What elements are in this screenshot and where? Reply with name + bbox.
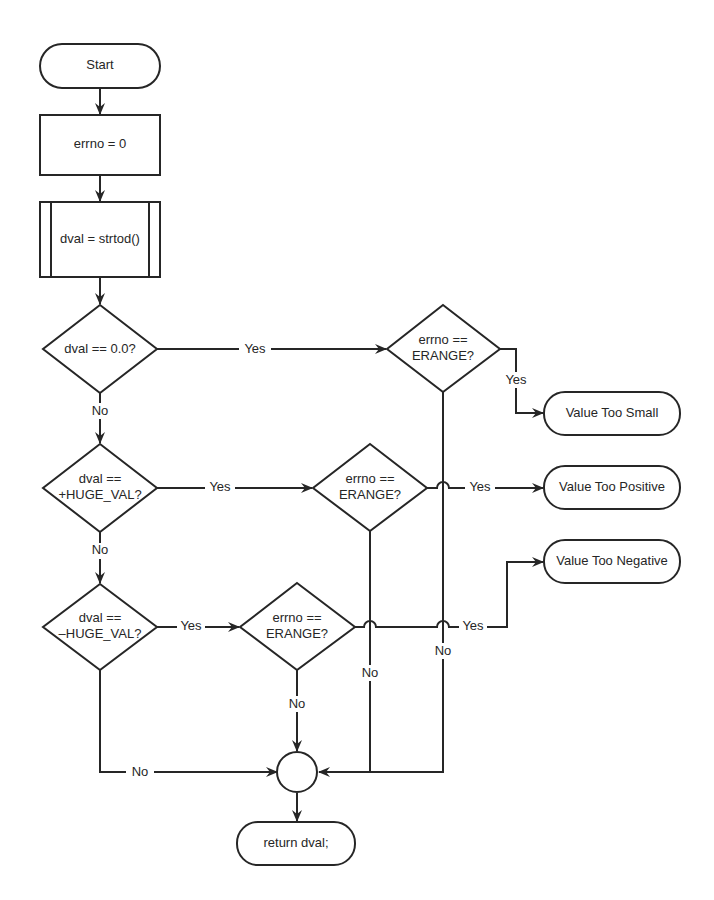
svg-text:Yes: Yes: [505, 372, 527, 387]
erange2-label-2: ERANGE?: [339, 487, 401, 502]
edge-erange1-no: [319, 392, 443, 772]
label-erange2-no: No: [360, 665, 380, 681]
erange1-label-1: errno ==: [418, 332, 467, 347]
start-label: Start: [86, 57, 114, 72]
strtod-label: dval = strtod(): [60, 231, 140, 246]
svg-text:Yes: Yes: [244, 341, 266, 356]
label-erange2-yes: Yes: [465, 479, 495, 496]
erange1-decision: errno == ERANGE?: [387, 305, 500, 392]
errno-init-label: errno = 0: [74, 136, 126, 151]
label-check-pos-yes: Yes: [205, 479, 235, 496]
erange1-label-2: ERANGE?: [412, 348, 474, 363]
svg-text:No: No: [92, 403, 109, 418]
label-erange3-yes: Yes: [459, 618, 487, 635]
too-small-terminal: Value Too Small: [544, 392, 680, 435]
return-label: return dval;: [263, 835, 328, 850]
edge-check-neg-no: [100, 670, 277, 772]
merge-connector: [277, 752, 317, 792]
return-terminal: return dval;: [237, 822, 355, 865]
check-zero-decision: dval == 0.0?: [43, 305, 157, 393]
label-check-neg-no: No: [126, 764, 154, 780]
erange3-decision: errno == ERANGE?: [240, 583, 355, 670]
label-erange3-no: No: [287, 696, 307, 712]
label-erange1-yes: Yes: [504, 372, 528, 388]
svg-text:Yes: Yes: [180, 618, 202, 633]
too-positive-terminal: Value Too Positive: [544, 466, 680, 509]
too-negative-terminal: Value Too Negative: [544, 540, 680, 583]
check-neg-label-1: dval ==: [79, 610, 122, 625]
start-terminal: Start: [40, 44, 160, 88]
erange2-label-1: errno ==: [345, 471, 394, 486]
edge-erange3-yes: [355, 562, 543, 627]
check-pos-decision: dval == +HUGE_VAL?: [43, 444, 157, 532]
check-neg-label-2: –HUGE_VAL?: [59, 626, 142, 641]
svg-text:Yes: Yes: [209, 479, 231, 494]
svg-text:No: No: [435, 643, 452, 658]
svg-text:Yes: Yes: [469, 479, 491, 494]
too-negative-label: Value Too Negative: [556, 553, 668, 568]
erange3-label-2: ERANGE?: [266, 626, 328, 641]
check-pos-label-2: +HUGE_VAL?: [58, 487, 141, 502]
check-zero-label: dval == 0.0?: [64, 341, 136, 356]
label-erange1-no: No: [433, 643, 453, 659]
check-pos-label-1: dval ==: [79, 471, 122, 486]
errno-init-process: errno = 0: [40, 115, 160, 175]
strtod-predefined-process: dval = strtod(): [40, 202, 160, 277]
too-small-label: Value Too Small: [566, 405, 659, 420]
svg-text:No: No: [289, 696, 306, 711]
too-positive-label: Value Too Positive: [559, 479, 665, 494]
label-check-pos-no: No: [90, 542, 110, 559]
svg-text:No: No: [92, 542, 109, 557]
erange3-label-1: errno ==: [272, 610, 321, 625]
check-neg-decision: dval == –HUGE_VAL?: [43, 584, 157, 670]
svg-text:No: No: [132, 764, 149, 779]
label-check-zero-no: No: [90, 403, 110, 419]
svg-text:No: No: [362, 665, 379, 680]
label-check-zero-yes: Yes: [239, 341, 271, 357]
svg-text:Yes: Yes: [462, 618, 484, 633]
erange2-decision: errno == ERANGE?: [313, 444, 427, 531]
label-check-neg-yes: Yes: [177, 618, 205, 635]
flowchart-canvas: Start errno = 0 dval = strtod() dval == …: [0, 0, 714, 900]
